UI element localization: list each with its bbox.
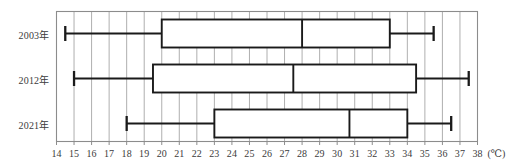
y-axis-label-3: 2021年 xyxy=(19,117,50,132)
box-plot-2 xyxy=(74,65,469,93)
box-plots xyxy=(65,20,468,138)
y-axis-label-2: 2012年 xyxy=(19,72,50,87)
box-plot-3 xyxy=(127,110,452,138)
plot-area xyxy=(0,0,517,168)
x-tick-label-38: 38 xyxy=(466,148,490,159)
y-axis-label-1: 2003年 xyxy=(19,27,50,42)
boxplot-chart: 2003年2012年2021年 141516171819202122232425… xyxy=(0,0,517,168)
box-iqr xyxy=(214,110,407,138)
box-iqr xyxy=(153,65,416,93)
x-axis-unit-label: (℃) xyxy=(488,148,506,159)
box-plot-1 xyxy=(65,20,433,48)
box-iqr xyxy=(162,20,390,48)
